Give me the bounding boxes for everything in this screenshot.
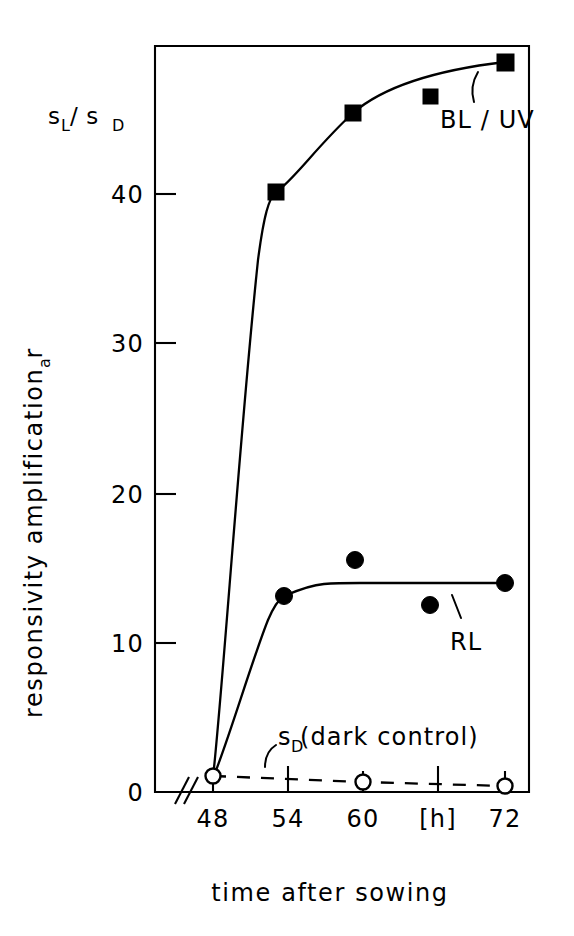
annotation-dark-control-rest: (dark control)	[300, 723, 479, 751]
x-tick-label-54: 54	[272, 805, 305, 833]
annotation-rl: RL	[450, 595, 482, 656]
y-tick-label-30: 30	[111, 330, 144, 358]
datapoint-bl-uv-2	[345, 105, 361, 121]
annotation-bl-uv-label: BL / UV	[440, 106, 535, 134]
annotation-dark-control: s D (dark control)	[265, 723, 479, 767]
datapoint-dark-2	[356, 775, 371, 790]
y-axis-title-subscript: a	[35, 358, 54, 368]
chart-svg: 40 30 20 10 0 s L / s D responsivity amp…	[0, 0, 574, 936]
x-unit-label: [h]	[419, 805, 457, 833]
series-bl-uv-line	[213, 62, 505, 777]
x-tick-label-72: 72	[489, 805, 522, 833]
y-axis-ratio-main: s	[48, 103, 61, 129]
y-tick-label-0: 0	[128, 779, 144, 807]
y-axis-title: responsivity amplification r	[20, 347, 48, 718]
datapoint-bl-uv-3	[423, 89, 438, 104]
series-dark-control	[206, 769, 513, 794]
y-axis-ratio-sub2: D	[112, 116, 125, 135]
annotation-rl-label: RL	[450, 628, 482, 656]
datapoint-rl-4	[497, 575, 514, 592]
y-axis-ratio-mid: / s	[70, 103, 99, 129]
x-tick-label-48: 48	[197, 805, 230, 833]
y-axis-ticks	[155, 194, 176, 643]
datapoint-rl-3	[422, 597, 439, 614]
datapoint-bl-uv-1	[268, 184, 284, 200]
datapoint-dark-1	[206, 769, 221, 784]
datapoint-rl-1	[276, 588, 293, 605]
annotation-bl-uv: BL / UV	[440, 72, 535, 134]
figure-container: 40 30 20 10 0 s L / s D responsivity amp…	[0, 0, 574, 936]
y-tick-label-40: 40	[111, 181, 144, 209]
datapoint-dark-3	[498, 779, 513, 794]
datapoint-rl-2	[347, 552, 364, 569]
y-axis-ratio-label: s L / s D	[48, 103, 125, 135]
plot-frame	[155, 46, 529, 792]
datapoint-bl-uv-4	[497, 54, 514, 71]
x-axis-title: time after sowing	[211, 879, 448, 907]
y-axis-title-group: responsivity amplification r a	[20, 347, 54, 718]
x-tick-label-60: 60	[347, 805, 380, 833]
y-tick-label-10: 10	[111, 630, 144, 658]
annotation-dark-control-main: s	[278, 723, 292, 751]
x-axis-break-icon	[175, 777, 198, 804]
y-tick-label-20: 20	[111, 481, 144, 509]
series-bl-uv	[213, 54, 514, 777]
